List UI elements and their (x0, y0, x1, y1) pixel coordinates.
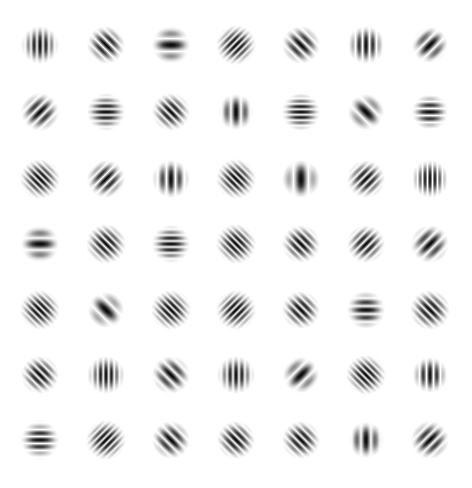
gabor-icon (12, 84, 68, 140)
gabor-patch (143, 282, 199, 338)
gabor-icon (143, 347, 199, 403)
gabor-icon (273, 17, 329, 73)
gabor-patch (143, 347, 199, 403)
gabor-icon (273, 412, 329, 468)
gabor-patch (78, 282, 134, 338)
gabor-icon (78, 84, 134, 140)
gabor-icon (143, 84, 199, 140)
gabor-patch (338, 84, 394, 140)
gabor-patch (78, 216, 134, 272)
gabor-icon (338, 282, 394, 338)
gabor-icon (402, 216, 458, 272)
gabor-icon (273, 216, 329, 272)
gabor-icon (338, 347, 394, 403)
gabor-patch (78, 17, 134, 73)
gabor-patch (273, 412, 329, 468)
gabor-patch (402, 84, 458, 140)
gabor-patch (12, 17, 68, 73)
gabor-icon (402, 84, 458, 140)
gabor-icon (208, 412, 264, 468)
gabor-icon (402, 347, 458, 403)
gabor-icon (12, 412, 68, 468)
gabor-icon (208, 282, 264, 338)
gabor-patch (402, 151, 458, 207)
gabor-patch (143, 412, 199, 468)
gabor-patch (12, 216, 68, 272)
gabor-icon (208, 347, 264, 403)
gabor-patch (273, 347, 329, 403)
gabor-icon (12, 216, 68, 272)
gabor-patch (402, 17, 458, 73)
gabor-patch (143, 151, 199, 207)
gabor-icon (12, 282, 68, 338)
gabor-icon (208, 151, 264, 207)
gabor-icon (12, 17, 68, 73)
gabor-patch (338, 17, 394, 73)
gabor-patch (12, 84, 68, 140)
gabor-patch (402, 347, 458, 403)
gabor-patch (208, 347, 264, 403)
gabor-patch (338, 151, 394, 207)
gabor-patch (402, 216, 458, 272)
gabor-patch (78, 84, 134, 140)
gabor-patch (273, 282, 329, 338)
gabor-patch (78, 412, 134, 468)
gabor-icon (143, 151, 199, 207)
gabor-patch (338, 216, 394, 272)
gabor-patch (338, 412, 394, 468)
gabor-icon (338, 151, 394, 207)
gabor-patch (208, 84, 264, 140)
gabor-icon (338, 17, 394, 73)
gabor-patch (12, 347, 68, 403)
gabor-patch (78, 151, 134, 207)
gabor-patch (273, 151, 329, 207)
gabor-patch (12, 412, 68, 468)
gabor-icon (143, 282, 199, 338)
gabor-icon (273, 151, 329, 207)
gabor-icon (12, 151, 68, 207)
gabor-icon (143, 17, 199, 73)
gabor-icon (402, 151, 458, 207)
gabor-patch (208, 412, 264, 468)
gabor-patch (402, 412, 458, 468)
gabor-patch (208, 151, 264, 207)
gabor-icon (78, 347, 134, 403)
gabor-icon (402, 412, 458, 468)
gabor-filter-grid: Gabor filter bank (0, 0, 472, 488)
gabor-patch (338, 282, 394, 338)
figure-title: Gabor filter bank (0, 0, 1, 1)
gabor-icon (338, 84, 394, 140)
gabor-patch (143, 216, 199, 272)
gabor-patch (208, 17, 264, 73)
gabor-icon (208, 84, 264, 140)
gabor-icon (208, 17, 264, 73)
gabor-patch (338, 347, 394, 403)
gabor-patch (273, 17, 329, 73)
gabor-patch (273, 84, 329, 140)
gabor-patch (12, 282, 68, 338)
gabor-patch (208, 216, 264, 272)
gabor-icon (78, 216, 134, 272)
gabor-icon (402, 282, 458, 338)
gabor-icon (143, 216, 199, 272)
gabor-icon (208, 216, 264, 272)
gabor-icon (273, 347, 329, 403)
gabor-icon (78, 282, 134, 338)
gabor-icon (78, 17, 134, 73)
gabor-icon (273, 84, 329, 140)
gabor-patch (402, 282, 458, 338)
gabor-icon (12, 347, 68, 403)
gabor-icon (338, 412, 394, 468)
gabor-patch (273, 216, 329, 272)
gabor-icon (78, 151, 134, 207)
gabor-patch (78, 347, 134, 403)
gabor-icon (338, 216, 394, 272)
gabor-patch (208, 282, 264, 338)
gabor-patch (143, 17, 199, 73)
gabor-patch (143, 84, 199, 140)
gabor-icon (273, 282, 329, 338)
gabor-icon (143, 412, 199, 468)
gabor-icon (402, 17, 458, 73)
gabor-patch (12, 151, 68, 207)
gabor-icon (78, 412, 134, 468)
